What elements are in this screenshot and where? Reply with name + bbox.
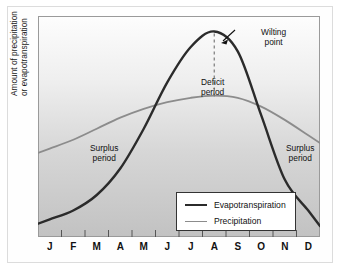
annotation-surplus-period-right: Surplus period <box>286 144 314 164</box>
annotation-deficit-period: Deficit period <box>201 78 224 98</box>
x-tick-label: F <box>62 240 86 258</box>
y-axis-label-line-2: or evapotranspiration <box>20 0 30 96</box>
x-tick-label: J <box>179 240 203 258</box>
legend-item-precipitation: Precipitation <box>177 213 297 229</box>
x-tick-label: S <box>226 240 250 258</box>
x-tick-label: A <box>203 240 227 258</box>
x-tick-label: J <box>38 240 62 258</box>
x-tick-label: M <box>132 240 156 258</box>
x-tick-label: N <box>273 240 297 258</box>
legend-swatch-evapotranspiration <box>185 204 207 206</box>
annotation-surplus-period-left: Surplus period <box>90 144 118 164</box>
chart-legend: Evapotranspiration Precipitation <box>176 192 296 231</box>
y-axis-label-holder: Amount of precipitation or evapotranspir… <box>12 60 32 220</box>
x-tick-label: O <box>250 240 274 258</box>
legend-label-evapotranspiration: Evapotranspiration <box>214 200 286 210</box>
annotation-line: period <box>90 154 118 164</box>
annotation-line: period <box>201 88 224 98</box>
annotation-line: point <box>261 38 286 48</box>
annotation-line: period <box>286 154 314 164</box>
x-tick-label: M <box>85 240 109 258</box>
legend-item-evapotranspiration: Evapotranspiration <box>177 197 297 213</box>
legend-swatch-precipitation <box>185 221 207 222</box>
legend-label-precipitation: Precipitation <box>214 216 261 226</box>
x-axis-tick-labels: J F M A M J J A S O N D <box>38 240 320 258</box>
x-tick-label: J <box>156 240 180 258</box>
plot-area: Surplus period Surplus period Deficit pe… <box>38 16 320 237</box>
annotation-wilting-point: Wilting point <box>261 28 286 48</box>
x-tick-label: A <box>109 240 133 258</box>
figure: Amount of precipitation or evapotranspir… <box>0 0 340 270</box>
x-tick-label: D <box>297 240 321 258</box>
